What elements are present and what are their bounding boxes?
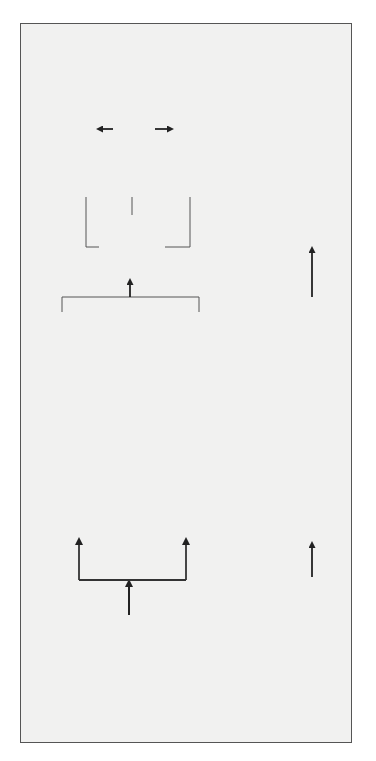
- diagram-canvas: [0, 0, 376, 761]
- connector-lines: [0, 0, 376, 761]
